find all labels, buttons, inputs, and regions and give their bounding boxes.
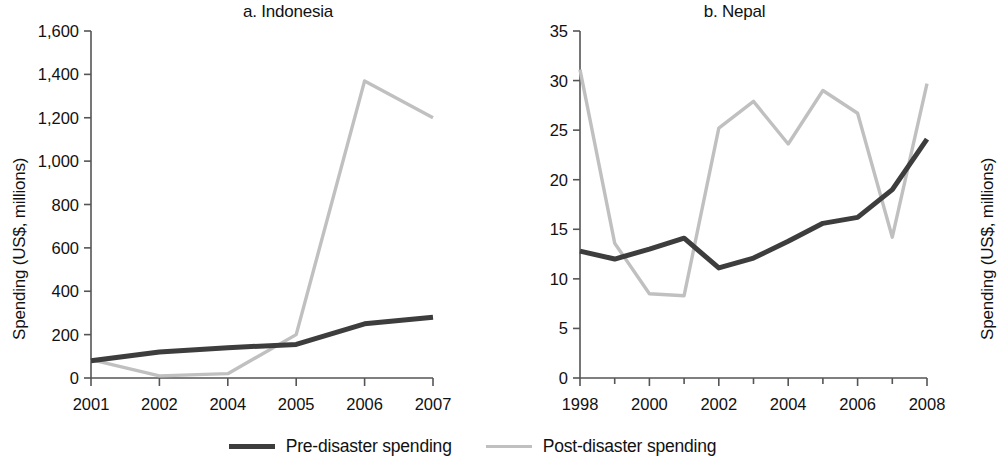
plot-area-nepal: 05101520253035 199820002002200420062008 (480, 0, 945, 420)
chart-panel-indonesia: a. Indonesia Spending (US$, millions) 02… (0, 0, 480, 420)
svg-text:20: 20 (550, 171, 568, 189)
legend-label-pre-disaster: Pre-disaster spending (286, 436, 452, 457)
svg-text:2001: 2001 (73, 395, 110, 413)
svg-text:2006: 2006 (839, 395, 876, 413)
svg-text:2000: 2000 (631, 395, 668, 413)
svg-text:2002: 2002 (700, 395, 737, 413)
svg-text:35: 35 (550, 22, 568, 40)
svg-text:0: 0 (559, 369, 568, 387)
y-axis-label-nepal: Spending (US$, millions) (978, 158, 998, 340)
legend-label-post-disaster: Post-disaster spending (543, 436, 717, 457)
svg-text:2006: 2006 (346, 395, 383, 413)
x-axis-ticks-indonesia: 200120022004200520062007 (73, 378, 452, 413)
legend-swatch-pre-disaster-icon (229, 444, 275, 449)
svg-text:10: 10 (550, 270, 568, 288)
svg-text:30: 30 (550, 72, 568, 90)
y-axis-ticks-nepal: 05101520253035 (550, 22, 580, 387)
svg-text:1,400: 1,400 (38, 65, 79, 83)
svg-text:1998: 1998 (562, 395, 599, 413)
svg-text:400: 400 (51, 282, 79, 300)
chart-legend: Pre-disaster spending Post-disaster spen… (0, 425, 945, 468)
svg-text:1,200: 1,200 (38, 109, 79, 127)
svg-text:25: 25 (550, 121, 568, 139)
series-line-post-disaster-nepal (580, 70, 927, 296)
legend-item-pre-disaster: Pre-disaster spending (229, 436, 452, 457)
svg-text:2002: 2002 (141, 395, 178, 413)
svg-text:0: 0 (70, 369, 79, 387)
svg-text:2004: 2004 (209, 395, 246, 413)
legend-swatch-post-disaster-icon (486, 445, 532, 448)
series-line-post-disaster-indonesia (91, 81, 433, 376)
chart-panel-nepal: b. Nepal Spending (US$, millions) 051015… (480, 0, 945, 420)
svg-text:2008: 2008 (909, 395, 945, 413)
svg-text:2004: 2004 (770, 395, 807, 413)
svg-text:1,600: 1,600 (38, 22, 79, 40)
svg-text:200: 200 (51, 326, 79, 344)
svg-text:2007: 2007 (415, 395, 452, 413)
x-axis-ticks-nepal: 199820002002200420062008 (562, 378, 945, 413)
y-axis-ticks-indonesia: 02004006008001,0001,2001,4001,600 (38, 22, 91, 387)
svg-text:600: 600 (51, 239, 79, 257)
svg-text:15: 15 (550, 220, 568, 238)
svg-text:1,000: 1,000 (38, 152, 79, 170)
svg-text:800: 800 (51, 196, 79, 214)
svg-text:2005: 2005 (278, 395, 315, 413)
plot-area-indonesia: 02004006008001,0001,2001,4001,600 200120… (0, 0, 480, 420)
legend-item-post-disaster: Post-disaster spending (486, 436, 717, 457)
svg-text:5: 5 (559, 319, 568, 337)
axis-lines-indonesia (91, 31, 433, 378)
series-line-pre-disaster-nepal (580, 139, 927, 268)
